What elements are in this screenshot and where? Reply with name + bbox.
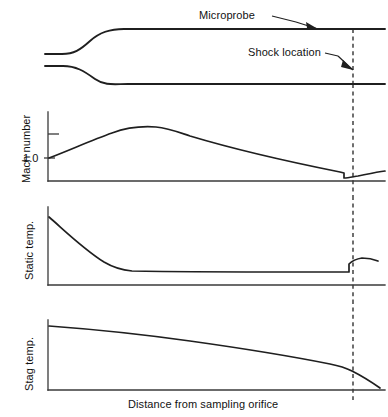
mach-axis-title: Mach number [20, 115, 32, 183]
x-axis-title: Distance from sampling orifice [128, 398, 278, 410]
shock-leader [325, 53, 353, 70]
static-temp-curve [49, 217, 378, 272]
microprobe-upper-wall [45, 29, 385, 54]
static-temp-axis-title: Static temp. [23, 221, 35, 280]
microprobe-leader [272, 16, 318, 29]
microprobe-schematic [45, 29, 385, 84]
stag-temp-curve [49, 326, 380, 388]
mach-plot [44, 112, 385, 181]
stag-temp-plot [48, 320, 385, 390]
figure-svg [0, 0, 388, 417]
static-temp-plot [48, 207, 385, 285]
mach-curve [49, 127, 385, 178]
shock-location-label: Shock location [248, 46, 321, 58]
microprobe-lower-wall [45, 66, 385, 84]
shock-arrowhead [341, 60, 353, 70]
microprobe-label: Microprobe [199, 9, 255, 21]
figure-container: Microprobe Shock location 1.0 Mach numbe… [0, 0, 388, 417]
stag-temp-axis-title: Stag temp. [23, 337, 35, 391]
